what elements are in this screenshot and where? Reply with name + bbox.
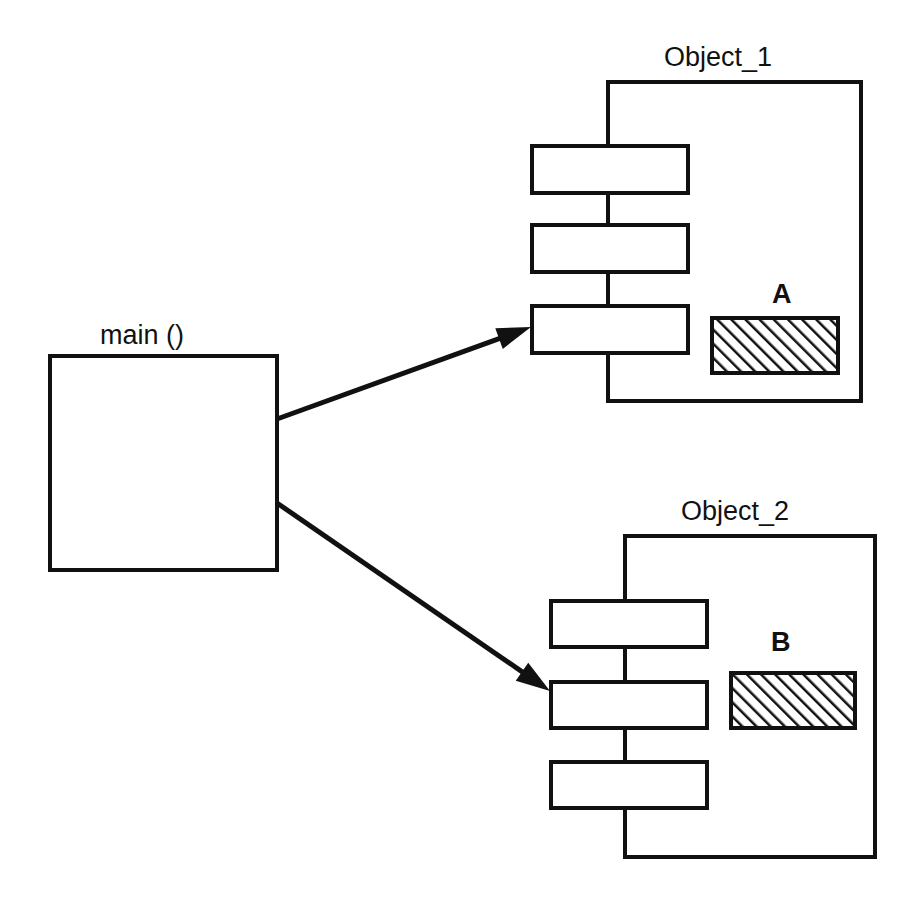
object-1-memory-label: A	[772, 281, 792, 308]
object-1-method-box[interactable]	[532, 225, 688, 272]
object-1-method-box[interactable]	[532, 306, 688, 353]
call-arrow-2	[277, 503, 550, 691]
object-2-method-box[interactable]	[551, 601, 707, 647]
call-arrow-line	[277, 337, 505, 419]
call-arrow-head-icon	[516, 663, 550, 691]
object-2-method-box[interactable]	[551, 682, 707, 728]
object-2-memory-label: B	[771, 629, 791, 656]
object-diagram	[0, 0, 920, 900]
diagram-canvas: main () Object_1 A Object_2 B	[0, 0, 920, 900]
object-1-group	[532, 82, 861, 401]
call-arrow-line	[277, 503, 527, 675]
call-arrow-1	[277, 327, 531, 419]
main-function-label: main ()	[100, 322, 184, 349]
call-arrow-head-icon	[495, 327, 531, 349]
object-1-method-box[interactable]	[532, 146, 688, 193]
object-1-title: Object_1	[664, 44, 772, 71]
object-2-method-box[interactable]	[551, 762, 707, 808]
object-1-memory-box[interactable]	[712, 318, 838, 373]
object-2-title: Object_2	[681, 498, 789, 525]
main-function-box[interactable]	[50, 356, 277, 570]
object-2-memory-box[interactable]	[731, 673, 855, 728]
object-2-group	[551, 536, 875, 857]
